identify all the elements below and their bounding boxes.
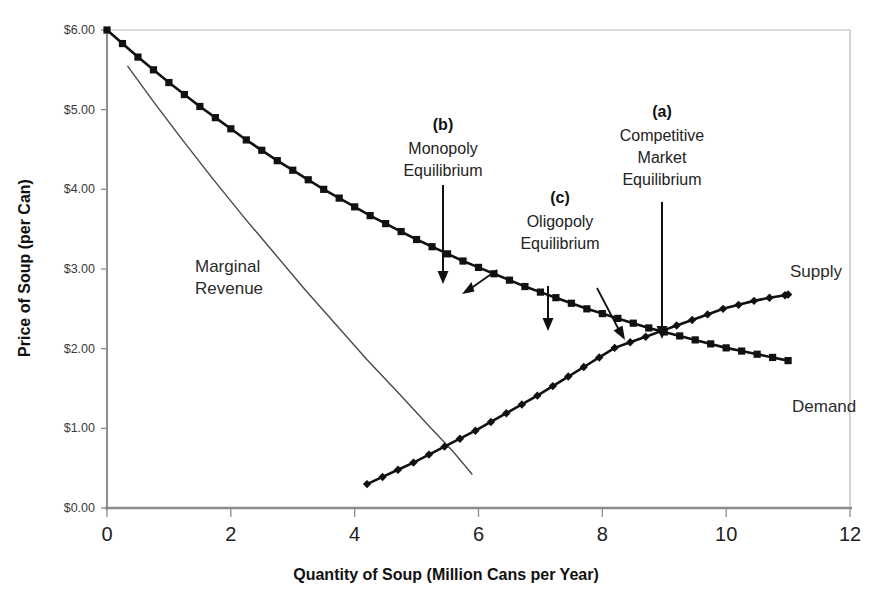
demand-marker [723, 344, 730, 351]
economics-supply-demand-chart: $0.00$1.00$2.00$3.00$4.00$5.00$6.00 0246… [0, 0, 887, 613]
y-tick-label: $0.00 [64, 501, 95, 515]
demand-marker [459, 257, 466, 264]
demand-marker [707, 340, 714, 347]
demand-marker [274, 157, 281, 164]
demand-marker [351, 203, 358, 210]
demand-marker [258, 147, 265, 154]
demand-marker [119, 40, 126, 47]
y-axis-title: Price of Soup (per Can) [16, 179, 33, 357]
demand-marker [552, 294, 559, 301]
y-tick-label: $2.00 [64, 342, 95, 356]
demand-marker [196, 103, 203, 110]
demand-marker [676, 332, 683, 339]
demand-marker [583, 305, 590, 312]
x-tick-label: 2 [225, 523, 236, 545]
demand-marker [599, 310, 606, 317]
y-tick-label: $4.00 [64, 182, 95, 196]
supply-series-label: Supply [790, 262, 842, 281]
demand-marker [398, 228, 405, 235]
annotation-a-line3: Equilibrium [622, 171, 701, 188]
annotation-a-line1: Competitive [620, 127, 705, 144]
x-tick-label: 10 [715, 523, 737, 545]
y-tick-label: $3.00 [64, 262, 95, 276]
x-axis-title: Quantity of Soup (Million Cans per Year) [293, 566, 599, 583]
x-tick-label: 0 [101, 523, 112, 545]
demand-marker [506, 277, 513, 284]
annotation-a-tag: (a) [652, 103, 672, 120]
demand-marker [103, 26, 110, 33]
marginal-revenue-label-line2: Revenue [195, 279, 263, 298]
demand-marker [413, 236, 420, 243]
demand-marker [305, 176, 312, 183]
annotation-b-line1: Monopoly [408, 140, 477, 157]
demand-marker [784, 357, 791, 364]
annotation-b-line2: Equilibrium [403, 162, 482, 179]
demand-marker [382, 220, 389, 227]
demand-marker [444, 250, 451, 257]
x-tick-label: 12 [839, 523, 861, 545]
x-tick-label: 6 [473, 523, 484, 545]
demand-marker [614, 315, 621, 322]
demand-marker [630, 320, 637, 327]
chart-background [0, 0, 887, 613]
demand-marker [738, 347, 745, 354]
demand-marker [475, 264, 482, 271]
demand-marker [537, 289, 544, 296]
demand-marker [243, 136, 250, 143]
demand-marker [212, 114, 219, 121]
demand-marker [320, 186, 327, 193]
marginal-revenue-label-line1: Marginal [195, 257, 260, 276]
demand-marker [645, 324, 652, 331]
demand-marker [181, 91, 188, 98]
demand-marker [521, 283, 528, 290]
demand-marker [769, 354, 776, 361]
annotation-b-tag: (b) [433, 116, 453, 133]
demand-marker [336, 194, 343, 201]
chart-container: $0.00$1.00$2.00$3.00$4.00$5.00$6.00 0246… [0, 0, 887, 613]
demand-marker [754, 351, 761, 358]
annotation-a-line2: Market [638, 149, 687, 166]
demand-marker [289, 167, 296, 174]
y-tick-label: $5.00 [64, 103, 95, 117]
demand-marker [568, 300, 575, 307]
demand-marker [150, 66, 157, 73]
demand-marker [692, 336, 699, 343]
x-tick-label: 4 [349, 523, 360, 545]
x-tick-label: 8 [597, 523, 608, 545]
demand-marker [428, 243, 435, 250]
demand-marker [367, 212, 374, 219]
demand-marker [134, 53, 141, 60]
demand-marker [165, 79, 172, 86]
y-tick-label: $6.00 [64, 23, 95, 37]
demand-marker [227, 125, 234, 132]
y-tick-label: $1.00 [64, 421, 95, 435]
annotation-c-line1: Oligopoly [527, 213, 594, 230]
annotation-c-line2: Equilibrium [520, 235, 599, 252]
annotation-c-tag: (c) [550, 189, 570, 206]
demand-series-label: Demand [792, 397, 856, 416]
